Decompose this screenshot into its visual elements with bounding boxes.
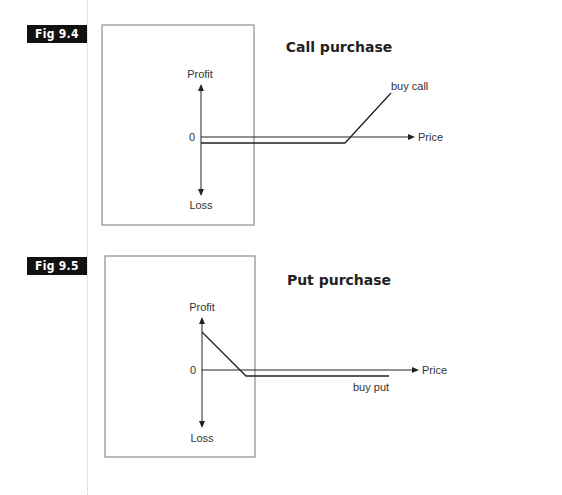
- chart-frame: [105, 256, 255, 457]
- arrow-right-icon: [412, 367, 419, 373]
- series-label: buy put: [353, 381, 389, 393]
- arrow-up-icon: [199, 317, 205, 324]
- payoff-line: [202, 332, 389, 376]
- zero-tick-label: 0: [190, 364, 196, 376]
- x-axis-label: Price: [422, 364, 447, 376]
- put-purchase-chart: Put purchase Profit Loss 0 Price buy put: [0, 0, 562, 495]
- chart-title: Put purchase: [287, 272, 391, 288]
- arrow-down-icon: [199, 421, 205, 428]
- y-axis-top-label: Profit: [189, 301, 215, 313]
- y-axis-bottom-label: Loss: [190, 432, 214, 444]
